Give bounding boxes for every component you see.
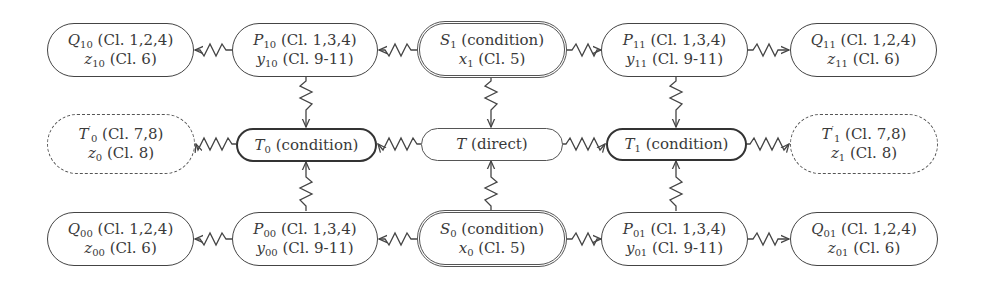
node-S1-line2: x1 (Cl. 5) <box>459 50 526 69</box>
node-T1-line1: T1 (condition) <box>625 135 729 154</box>
node-P10: P10 (Cl. 1,3,4) y10 (Cl. 9-11) <box>232 23 378 77</box>
edge-P00-T0 <box>300 162 312 211</box>
edge-P01-Q01 <box>747 233 789 245</box>
node-T0-prime-line2: z0 (Cl. 8) <box>88 144 154 163</box>
node-T0-line1: T0 (condition) <box>255 136 359 155</box>
node-Q11: Q11 (Cl. 1,2,4) z11 (Cl. 6) <box>790 23 937 77</box>
edge-P01-T1 <box>670 161 682 211</box>
node-T1-prime-line2: z1 (Cl. 8) <box>831 144 897 163</box>
node-Q10-line1: Q10 (Cl. 1,2,4) <box>68 31 174 50</box>
edge-P00-Q00 <box>195 233 232 245</box>
node-Q10-line2: z10 (Cl. 6) <box>84 50 156 69</box>
node-Q01: Q01 (Cl. 1,2,4) z01 (Cl. 6) <box>790 212 938 266</box>
node-P00-line2: y00 (Cl. 9-11) <box>256 239 353 258</box>
node-P01: P01 (Cl. 1,3,4) y01 (Cl. 9-11) <box>601 212 748 266</box>
node-P10-line2: y10 (Cl. 9-11) <box>256 50 353 69</box>
node-S0: S0 (condition) x0 (Cl. 5) <box>417 210 567 267</box>
node-T0: T0 (condition) <box>236 128 377 162</box>
edge-S1-T <box>485 77 497 127</box>
node-S0-line2: x0 (Cl. 5) <box>459 239 526 258</box>
node-P01-line1: P01 (Cl. 1,3,4) <box>623 220 726 239</box>
edge-P10-Q10 <box>195 44 232 56</box>
node-T-line1: T (direct) <box>456 135 527 154</box>
node-T0-prime: T′0 (Cl. 7,8) z0 (Cl. 8) <box>47 114 195 174</box>
node-T0-prime-line1: T′0 (Cl. 7,8) <box>79 125 164 144</box>
node-Q10: Q10 (Cl. 1,2,4) z10 (Cl. 6) <box>47 23 194 77</box>
node-P00: P00 (Cl. 1,3,4) y00 (Cl. 9-11) <box>232 212 378 266</box>
node-Q11-line1: Q11 (Cl. 1,2,4) <box>811 31 917 50</box>
node-T1-prime-line1: T′1 (Cl. 7,8) <box>822 125 907 144</box>
node-Q00: Q00 (Cl. 1,2,4) z00 (Cl. 6) <box>47 212 194 266</box>
edge-S1-P10 <box>379 44 417 56</box>
node-Q00-line1: Q00 (Cl. 1,2,4) <box>68 220 174 239</box>
dependency-diagram: Q10 (Cl. 1,2,4) z10 (Cl. 6) P10 (Cl. 1,3… <box>0 0 985 286</box>
node-Q01-line2: z01 (Cl. 6) <box>828 239 900 258</box>
node-T1-prime: T′1 (Cl. 7,8) z1 (Cl. 8) <box>790 114 938 174</box>
edge-S0-P00 <box>379 233 417 245</box>
edge-P11-Q11 <box>747 44 789 56</box>
node-P10-line1: P10 (Cl. 1,3,4) <box>253 31 356 50</box>
edge-T0-T0p <box>196 138 236 150</box>
edge-T-T1 <box>562 138 605 150</box>
edge-S1-P11 <box>566 44 601 56</box>
node-S1: S1 (condition) x1 (Cl. 5) <box>417 21 567 78</box>
node-P11: P11 (Cl. 1,3,4) y11 (Cl. 9-11) <box>601 23 748 77</box>
edge-S0-P01 <box>566 233 601 245</box>
node-Q01-line1: Q01 (Cl. 1,2,4) <box>811 220 917 239</box>
node-T: T (direct) <box>421 128 563 161</box>
node-P11-line2: y11 (Cl. 9-11) <box>626 50 723 69</box>
edge-S0-T <box>485 161 497 211</box>
node-S1-line1: S1 (condition) <box>440 31 544 50</box>
edge-T-T0 <box>378 138 421 150</box>
node-P01-line2: y01 (Cl. 9-11) <box>626 239 723 258</box>
edge-P10-T0 <box>300 77 312 127</box>
node-Q11-line2: z11 (Cl. 6) <box>827 50 899 69</box>
edge-T1-T1p <box>746 138 789 150</box>
edge-P11-T1 <box>670 77 682 127</box>
node-S0-line1: S0 (condition) <box>440 220 544 239</box>
node-P11-line1: P11 (Cl. 1,3,4) <box>623 31 726 50</box>
node-Q00-line2: z00 (Cl. 6) <box>84 239 156 258</box>
node-P00-line1: P00 (Cl. 1,3,4) <box>253 220 356 239</box>
node-T1: T1 (condition) <box>606 128 747 161</box>
